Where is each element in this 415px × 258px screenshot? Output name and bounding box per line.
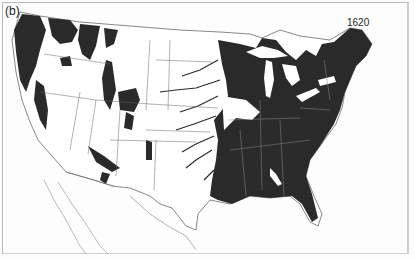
us-forest-map xyxy=(0,0,415,258)
year-label: 1620 xyxy=(347,17,369,28)
baja-coastline xyxy=(44,180,108,254)
eastern-forest xyxy=(210,28,372,222)
panel-label: (b) xyxy=(5,4,20,18)
map-figure: (b) 1620 xyxy=(0,0,415,258)
